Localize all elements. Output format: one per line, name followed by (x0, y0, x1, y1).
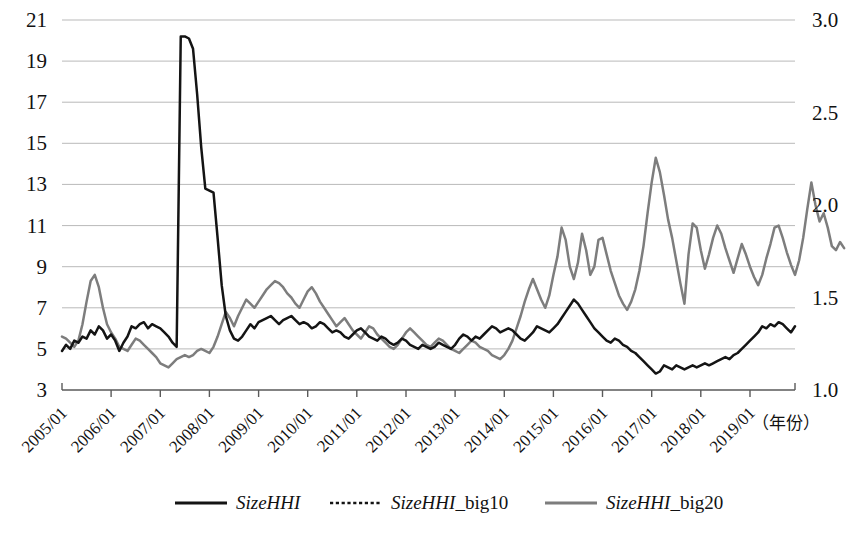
left-axis-tick-label: 7 (37, 296, 48, 320)
left-axis-tick-label: 13 (26, 172, 47, 196)
x-axis-tick-label: 2009/01 (215, 403, 268, 456)
series-line-sizehhi (62, 36, 795, 373)
x-axis-tick-label: 2013/01 (411, 403, 464, 456)
left-axis-tick-label: 21 (26, 8, 47, 32)
left-axis-tick-labels: 3579111315171921 (26, 8, 47, 402)
right-axis-tick-label: 3.0 (812, 8, 838, 32)
left-axis-tick-label: 19 (26, 49, 47, 73)
chart-container: 3579111315171921 1.01.52.02.53.0 2005/01… (0, 0, 859, 552)
right-axis-tick-label: 2.0 (812, 193, 838, 217)
x-axis-tick-label: 2007/01 (116, 403, 169, 456)
legend-label-sizehhi: SizeHHI (236, 492, 302, 513)
line-chart: 3579111315171921 1.01.52.02.53.0 2005/01… (0, 0, 859, 552)
x-axis-tick-label: 2008/01 (165, 403, 218, 456)
x-axis-tick-label: 2014/01 (460, 403, 513, 456)
legend-label-sizehhi_big10: SizeHHI_big10 (391, 492, 508, 513)
x-axis-tick-label: 2006/01 (67, 403, 120, 456)
legend-label-sizehhi_big20: SizeHHI_big20 (606, 492, 723, 513)
left-axis-tick-label: 15 (26, 131, 47, 155)
x-axis-tick-label: 2011/01 (313, 403, 365, 455)
x-axis-tick-labels: 2005/012006/012007/012008/012009/012010/… (18, 403, 759, 456)
x-axis-unit-note: （年份） (752, 414, 820, 433)
left-axis-tick-label: 5 (37, 337, 48, 361)
left-axis-tick-label: 11 (27, 214, 47, 238)
x-axis-tick-label: 2019/01 (706, 403, 759, 456)
x-axis-tick-label: 2012/01 (362, 403, 415, 456)
plot-series (62, 0, 844, 374)
x-axis-tick-label: 2018/01 (657, 403, 710, 456)
right-axis-tick-label: 2.5 (812, 101, 838, 125)
x-axis-tick-label: 2016/01 (558, 403, 611, 456)
right-axis-tick-label: 1.0 (812, 378, 838, 402)
right-axis-tick-labels: 1.01.52.02.53.0 (812, 8, 838, 402)
x-axis-tick-label: 2010/01 (264, 403, 317, 456)
x-axis-tick-label: 2017/01 (608, 403, 661, 456)
left-axis-tick-label: 9 (37, 255, 48, 279)
x-axis-tick-label: 2005/01 (18, 403, 71, 456)
right-axis-tick-label: 1.5 (812, 286, 838, 310)
x-axis-tick-label: 2015/01 (509, 403, 562, 456)
chart-legend: SizeHHISizeHHI_big10SizeHHI_big20 (175, 492, 723, 513)
x-axis-unit-label: （年份） (752, 414, 820, 433)
left-axis-tick-label: 17 (26, 90, 47, 114)
left-axis-tick-label: 3 (37, 378, 48, 402)
axes (62, 383, 795, 397)
